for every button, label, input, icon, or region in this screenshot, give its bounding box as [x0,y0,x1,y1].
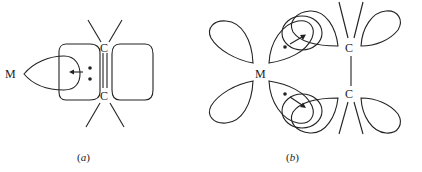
panel-a: M C C (a) [5,20,153,164]
substituent-line [354,2,363,38]
electron-dot [88,77,92,81]
carbon-bottom-label-b: C [345,87,353,101]
metal-d-lobe-upper-left [209,21,253,63]
metal-label-a: M [5,67,16,81]
substituent-line [339,102,348,134]
carbon-top-label-b: C [345,41,353,55]
pi-lobe-right [112,44,153,100]
pistar-lobe-bottom-right [361,98,400,133]
substituent-line [86,103,100,127]
substituent-line [88,20,101,42]
backdonation-arrow-shaft [290,97,302,105]
electron-dot [88,66,92,70]
panel-b: M C C (b) [209,2,400,164]
pistar-lobe-top-right [361,11,400,46]
substituent-line [109,20,122,42]
carbon-bottom-label-a: C [100,89,108,103]
caption-b: (b) [286,151,299,164]
electron-dot [283,92,287,96]
substituent-line [339,2,348,38]
metal-label-b: M [255,67,266,81]
donation-arrow-icon [69,70,74,75]
carbon-top-label-a: C [100,41,108,55]
caption-a: (a) [77,151,90,164]
substituent-line [110,103,124,127]
electron-dot [283,45,287,49]
diagram-canvas: M C C (a) M [0,0,422,172]
backdonation-arrow-shaft [290,37,302,44]
metal-d-lobe-lower-left [209,81,253,123]
